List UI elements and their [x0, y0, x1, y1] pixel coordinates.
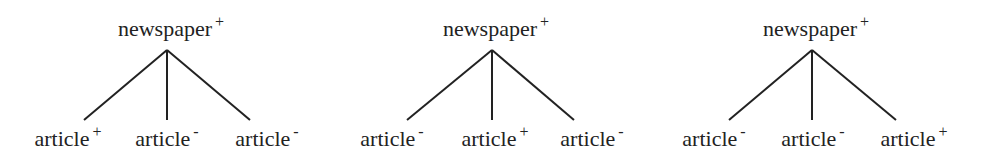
edge — [407, 50, 492, 120]
node-sign: + — [215, 13, 224, 30]
tree-1-child-1-node: article+ — [35, 128, 102, 150]
node-sign: - — [839, 123, 844, 140]
node-sign: + — [860, 13, 869, 30]
tree-3-child-1-node: article- — [682, 128, 745, 150]
node-sign: + — [519, 123, 528, 140]
tree-1-child-3-node: article- — [235, 128, 298, 150]
node-label: newspaper — [763, 16, 857, 41]
node-label: article — [235, 126, 290, 151]
edge — [492, 50, 574, 120]
node-label: newspaper — [118, 16, 212, 41]
node-sign: - — [193, 123, 198, 140]
node-label: article — [781, 126, 836, 151]
tree-3-child-2-node: article- — [781, 128, 844, 150]
node-sign: + — [92, 123, 101, 140]
tree-2-child-2-node: article+ — [462, 128, 529, 150]
node-label: newspaper — [443, 16, 537, 41]
tree-1-root-node: newspaper+ — [118, 18, 224, 40]
node-label: article — [135, 126, 190, 151]
edge — [84, 50, 167, 120]
node-label: article — [360, 126, 415, 151]
tree-3-child-3-node: article+ — [881, 128, 948, 150]
tree-1-child-2-node: article- — [135, 128, 198, 150]
node-sign: - — [740, 123, 745, 140]
node-label: article — [881, 126, 936, 151]
node-sign: + — [938, 123, 947, 140]
edge — [167, 50, 250, 120]
tree-2-child-3-node: article- — [560, 128, 623, 150]
node-label: article — [35, 126, 90, 151]
node-sign: + — [540, 13, 549, 30]
tree-2-root-node: newspaper+ — [443, 18, 549, 40]
node-label: article — [682, 126, 737, 151]
node-sign: - — [618, 123, 623, 140]
node-sign: - — [293, 123, 298, 140]
tree-3-root-node: newspaper+ — [763, 18, 869, 40]
node-label: article — [462, 126, 517, 151]
edge — [812, 50, 896, 120]
tree-2-child-1-node: article- — [360, 128, 423, 150]
node-label: article — [560, 126, 615, 151]
edge — [729, 50, 812, 120]
node-sign: - — [418, 123, 423, 140]
